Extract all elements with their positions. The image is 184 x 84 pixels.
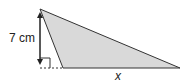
base-label: x xyxy=(114,69,122,83)
right-angle-marker xyxy=(40,58,50,68)
shaded-triangle xyxy=(40,9,180,68)
height-label: 7 cm xyxy=(9,31,35,45)
triangle-diagram: 7 cm x xyxy=(0,0,184,84)
